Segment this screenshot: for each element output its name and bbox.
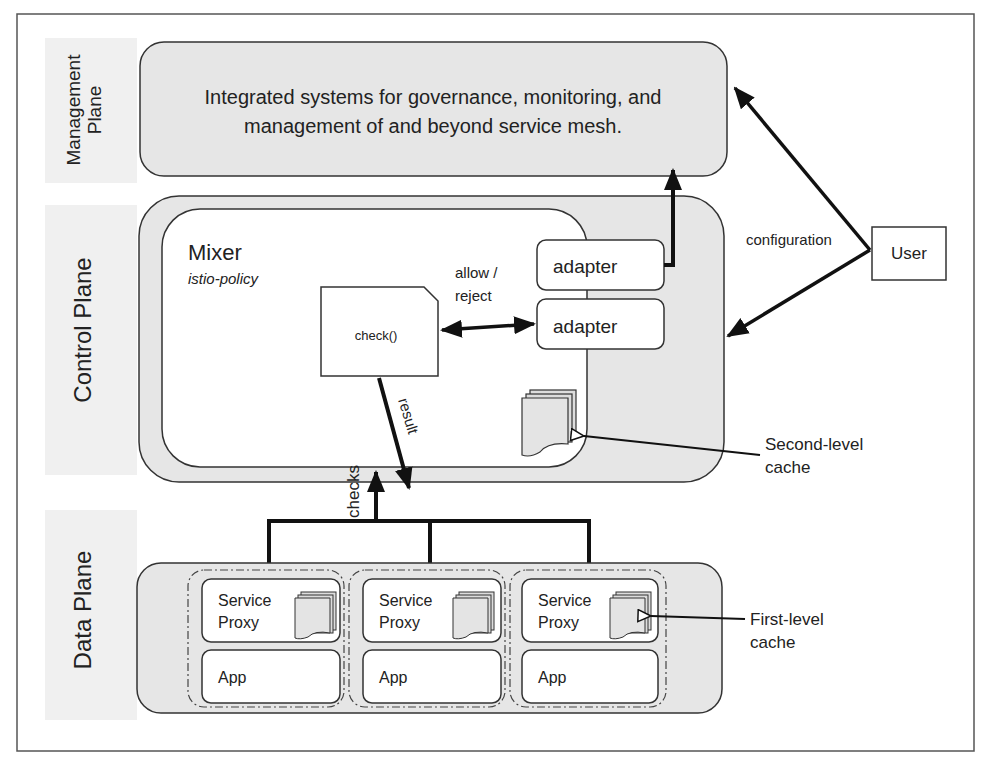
svg-text:App: App [379, 669, 408, 686]
adapter-label-1: adapter [553, 256, 618, 277]
svg-text:Proxy: Proxy [538, 614, 579, 631]
svg-text:Management: Management [63, 54, 84, 166]
first-level-cache-icon-2 [453, 592, 494, 639]
checks-label: checks [344, 465, 363, 518]
allow-reject-label-line1: allow / [455, 264, 498, 281]
check-function-label: check() [355, 328, 398, 343]
pod-2: Service Proxy App [349, 570, 505, 707]
svg-text:App: App [538, 669, 567, 686]
svg-text:Service: Service [379, 592, 432, 609]
mixer-title: Mixer [188, 240, 242, 265]
svg-text:Proxy: Proxy [379, 614, 420, 631]
pod-1: Service Proxy App [188, 570, 344, 707]
svg-text:Plane: Plane [84, 86, 105, 135]
second-level-cache-label-line2: cache [765, 458, 810, 477]
first-level-cache-icon-3 [610, 592, 651, 639]
first-level-cache-label-line1: First-level [750, 610, 824, 629]
management-description-line1: Integrated systems for governance, monit… [205, 86, 662, 108]
pod-3: Service Proxy App [510, 570, 666, 707]
first-level-cache-icon-1 [295, 592, 336, 639]
user-label: User [891, 244, 927, 263]
first-level-cache-label-line2: cache [750, 633, 795, 652]
svg-text:Service: Service [218, 592, 271, 609]
configuration-label: configuration [746, 231, 832, 248]
istio-mixer-diagram: Management Plane Control Plane Data Plan… [0, 0, 985, 769]
data-plane-label: Data Plane [69, 551, 96, 670]
control-plane-label: Control Plane [69, 257, 96, 402]
allow-reject-label-line2: reject [455, 287, 493, 304]
second-level-cache-label-line1: Second-level [765, 435, 863, 454]
svg-text:App: App [218, 669, 247, 686]
management-plane-box [140, 42, 727, 176]
mixer-subtitle: istio-policy [188, 270, 260, 287]
management-description-line2: management of and beyond service mesh. [244, 115, 622, 137]
svg-text:Proxy: Proxy [218, 614, 259, 631]
adapter-label-2: adapter [553, 316, 618, 337]
svg-text:Service: Service [538, 592, 591, 609]
